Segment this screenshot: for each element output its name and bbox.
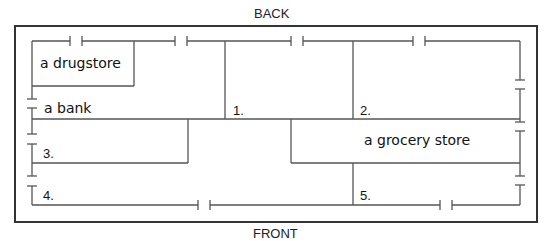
blank-space-2: 2. [360, 103, 371, 118]
store-drugstore: a drugstore [40, 55, 121, 71]
floor-plan-lines [0, 0, 550, 241]
blank-space-3: 3. [43, 146, 54, 161]
store-grocery: a grocery store [364, 132, 470, 148]
blank-space-1: 1. [233, 103, 244, 118]
blank-space-5: 5. [360, 188, 371, 203]
blank-space-4: 4. [43, 188, 54, 203]
store-bank: a bank [44, 100, 91, 116]
